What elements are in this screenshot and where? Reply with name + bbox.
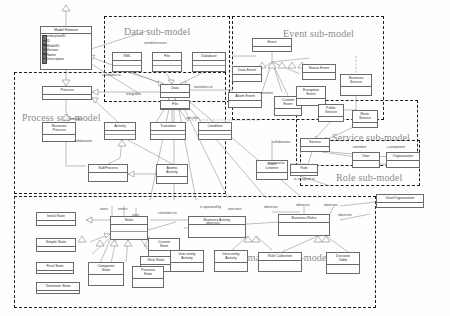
class-initial-state-name: Initial State — [37, 213, 75, 221]
class-xml-name: XML — [113, 53, 141, 61]
class-xml[interactable]: XML — [112, 52, 142, 72]
class-business-activity[interactable]: Business Activity — [188, 216, 246, 238]
class-basic-service[interactable]: Basic Service — [352, 110, 378, 128]
class-data-name: Data — [161, 85, 189, 93]
class-status-event-name: Status Event — [303, 65, 335, 73]
class-service-name: Service — [301, 139, 329, 147]
class-decision-table[interactable]: Decision Table — [326, 252, 360, 274]
class-organization[interactable]: Organization — [386, 152, 420, 168]
class-condition-name: Condition — [199, 123, 231, 131]
class-previous-state-name: Previous State — [133, 267, 163, 279]
class-process-name: Process — [43, 87, 91, 95]
class-composite-state-name: Composite State — [89, 263, 123, 275]
class-status-event[interactable]: Status Event — [302, 64, 336, 80]
class-composite-state[interactable]: Composite State — [88, 262, 124, 286]
class-exception-event[interactable]: Exception Event — [296, 86, 326, 106]
edge-label-member: +member — [352, 146, 366, 150]
edge-label-monitors: monitors — [260, 92, 273, 96]
edge-label-is-assigned-to: is assigned to — [294, 178, 315, 182]
class-file[interactable]: File — [152, 52, 182, 72]
class-inter-entity-activity-name: Inter-entity Activity — [171, 251, 203, 263]
class-data-event[interactable]: Data Event — [232, 66, 262, 82]
class-final-state[interactable]: Final State — [36, 262, 74, 274]
edge-label-cooperates: cooperates — [268, 162, 285, 166]
class-basic-service-name: Basic Service — [353, 111, 377, 123]
class-organization-name: Organization — [387, 153, 419, 161]
class-activity-name: Activity — [105, 123, 135, 131]
class-business-process-name: Business Process — [43, 123, 75, 135]
class-process[interactable]: Process — [42, 86, 92, 100]
class-exception-event-name: Exception Event — [297, 87, 325, 99]
class-user-organization[interactable]: User/Organization — [376, 194, 424, 208]
class-intra-entity-activity[interactable]: Intra-entity Activity — [214, 250, 248, 272]
class-data[interactable]: Data — [160, 84, 190, 98]
class-subprocess-name: SubProcess — [89, 165, 127, 173]
class-decision-table-name: Decision Table — [327, 253, 359, 265]
class-data-event-name: Data Event — [233, 67, 261, 75]
class-current-state-name: Current State — [149, 239, 179, 251]
class-final-state-name: Final State — [37, 263, 73, 271]
edge-label-includes: includes — [70, 118, 82, 122]
class-alarm-event-name: Alarm Event — [229, 93, 261, 101]
class-rule-collection-name: Rule Collection — [259, 253, 301, 261]
class-role[interactable]: Role — [290, 164, 318, 176]
class-activity[interactable]: Activity — [104, 122, 136, 140]
class-transition-name: Transition — [151, 123, 185, 131]
class-subprocess[interactable]: SubProcess — [88, 164, 128, 182]
edge-label-executes: executes — [228, 208, 242, 212]
edge-label-is-operated-by: is operated by — [200, 206, 221, 210]
edge-label-collaborates-process: collaborates — [74, 140, 92, 144]
class-role-name: Role — [291, 165, 317, 173]
class-next-state-name: Next State — [141, 257, 171, 265]
class-model-element[interactable]: Model Element enterpriseID ID ModelID Ve… — [40, 26, 92, 70]
edge-label-specifies: specifies — [186, 117, 199, 121]
edge-label-owns: owns — [100, 208, 108, 212]
class-condition[interactable]: Condition — [198, 122, 232, 140]
class-database[interactable]: Database — [192, 52, 226, 72]
class-event[interactable]: Event — [252, 38, 292, 52]
edge-label-correlates-to-state: correlates to — [158, 212, 177, 216]
class-simple-state[interactable]: Simple State — [36, 238, 76, 252]
class-state-name: State — [111, 217, 147, 225]
edge-label-observes-1: observes — [264, 206, 278, 210]
class-user-organization-name: User/Organization — [377, 195, 423, 203]
edge-label-collaborates-service: collaborates — [272, 141, 290, 145]
class-user[interactable]: User — [352, 152, 380, 168]
edge-label-observes-3: observes — [324, 204, 338, 208]
class-previous-state[interactable]: Previous State — [132, 266, 164, 288]
class-terminate-state[interactable]: Terminate State — [36, 282, 80, 294]
class-service[interactable]: Service — [300, 138, 330, 152]
class-business-rules[interactable]: Business Rules — [278, 214, 330, 236]
edge-label-component: +component — [386, 146, 405, 150]
class-file-name: File — [153, 53, 181, 61]
edge-label-enters: enters — [118, 208, 127, 212]
class-public-service-name: Public Service — [319, 105, 343, 117]
class-user-name: User — [353, 153, 379, 161]
class-initial-state[interactable]: Initial State — [36, 212, 76, 226]
class-business-rules-name: Business Rules — [279, 215, 329, 223]
class-business-service-name: Business Service — [341, 75, 371, 87]
class-event-name: Event — [253, 39, 291, 47]
class-data-file[interactable]: File — [160, 100, 190, 110]
class-inter-entity-activity[interactable]: Inter-entity Activity — [170, 250, 204, 272]
class-atomic-activity[interactable]: Atomic Activity — [156, 164, 188, 184]
class-intra-entity-activity-name: Intra-entity Activity — [215, 251, 247, 263]
class-terminate-state-name: Terminate State — [37, 283, 79, 291]
edge-label-observes-4: observes — [338, 214, 352, 218]
class-business-process[interactable]: Business Process — [42, 122, 76, 142]
class-business-service[interactable]: Business Service — [340, 74, 372, 96]
class-rule-collection[interactable]: Rule Collection — [258, 252, 302, 272]
class-data-file-name: File — [161, 101, 189, 109]
attr-description: Description — [41, 57, 91, 62]
class-alarm-event[interactable]: Alarm Event — [228, 92, 262, 108]
edge-label-correlates-to: correlates to — [102, 74, 121, 78]
edge-label-observes-5: observes — [206, 222, 220, 226]
class-transition[interactable]: Transition — [150, 122, 186, 140]
class-public-service[interactable]: Public Service — [318, 104, 344, 122]
edge-label-integrates: integrates — [126, 93, 141, 97]
class-database-name: Database — [193, 53, 225, 61]
edge-label-sends-receives: sends/receives — [144, 42, 167, 46]
class-state[interactable]: State — [110, 216, 148, 240]
uml-diagram-canvas: Data sub-model Event sub-model Process s… — [0, 0, 450, 316]
class-simple-state-name: Simple State — [37, 239, 75, 247]
